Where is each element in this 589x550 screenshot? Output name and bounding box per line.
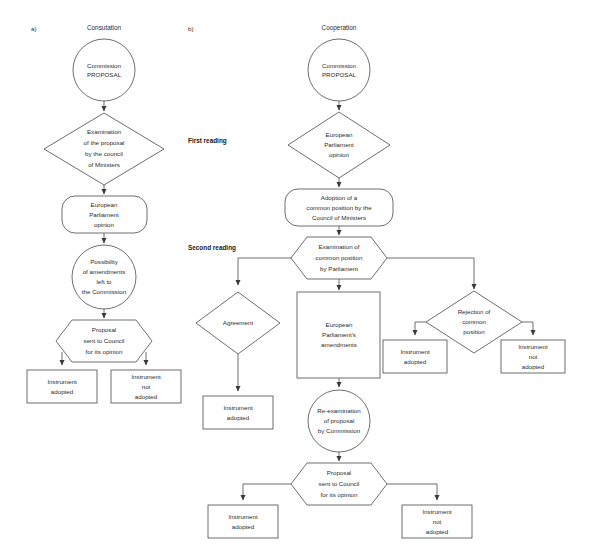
node-a-not-adopted-line-1: not: [142, 383, 151, 390]
node-b-final-adopted-line-0: Instrument: [228, 513, 258, 520]
node-b-agreement: Agreement: [196, 292, 280, 354]
node-b-agree-adopted: Instrument adopted: [203, 396, 273, 429]
node-a-examination-line-2: by the council: [85, 150, 123, 157]
node-b-rejection-not-adopted-line-0: Instrument: [518, 343, 548, 350]
node-a-examination: Examination of the proposal by the counc…: [44, 113, 164, 185]
node-b-rejection-not-adopted: Instrument not adopted: [501, 340, 565, 373]
node-a-adopted-line-1: adopted: [51, 388, 74, 395]
node-a-examination-line-0: Examination: [87, 128, 122, 135]
node-a-ep-opinion-line-1: Parliament: [89, 211, 119, 218]
node-a-ep-opinion-line-2: opinion: [94, 221, 115, 228]
edge-b-examination-to-rejection: [387, 258, 474, 289]
panel-a: a) Consutation Commission PROPOSAL Exami…: [27, 24, 181, 403]
flowchart-diagram: a) Consutation Commission PROPOSAL Exami…: [0, 0, 589, 550]
node-b-amendments-line-1: Parliament's: [322, 331, 356, 338]
panel-b-title: Cooperation: [322, 24, 357, 32]
node-b-agreement-line-0: Agreement: [223, 319, 254, 326]
node-a-proposal-line-0: Commission: [87, 62, 122, 69]
node-b-proposal-line-1: PROPOSAL: [322, 71, 357, 78]
edge-b-proposal-sent-to-final-adopted: [243, 484, 291, 500]
node-a-possibility-line-2: left to: [96, 278, 112, 285]
node-b-examination-line-2: by Parliament: [320, 265, 358, 272]
node-b-final-not-adopted-line-1: not: [433, 518, 442, 525]
edge-b-rejection-to-not-adopted: [522, 322, 533, 335]
node-b-rejection-adopted: Instrument adopted: [383, 340, 447, 373]
node-b-ep-opinion-line-2: opinion: [329, 151, 350, 158]
node-b-rejection-line-0: Rejection of: [458, 308, 491, 315]
node-a-not-adopted-line-2: adopted: [135, 393, 158, 400]
stage-label-first-reading: First reading: [188, 137, 227, 145]
node-a-proposal-sent-line-2: for its opinion: [86, 348, 123, 355]
node-b-amendments: European Parliament's amendments: [297, 292, 380, 378]
node-a-adopted-line-0: Instrument: [47, 378, 77, 385]
node-b-adoption-line-0: Adoption of a: [321, 194, 358, 201]
node-b-reexamination-line-0: Re-examination: [317, 407, 361, 414]
node-b-proposal-line-0: Commission: [322, 62, 357, 69]
node-a-proposal-sent-line-0: Proposal: [92, 326, 116, 333]
node-a-examination-line-1: of the proposal: [84, 139, 125, 146]
node-b-ep-opinion-line-0: European: [326, 131, 353, 138]
node-b-amendments-line-2: amendments: [321, 341, 357, 348]
node-b-examination-line-1: common position: [316, 254, 363, 261]
node-b-final-not-adopted: Instrument not adopted: [402, 505, 472, 538]
node-a-possibility-line-3: the Commission: [82, 288, 127, 295]
node-b-examination: Examination of common position by Parlia…: [291, 237, 387, 279]
node-b-proposal-sent: Proposal sent to Council for its opinion: [291, 463, 387, 505]
node-a-examination-line-3: of Ministers: [88, 161, 120, 168]
node-b-rejection-line-2: position: [463, 328, 485, 335]
node-b-reexamination-line-1: of proposal: [324, 417, 355, 424]
node-b-ep-opinion-line-1: Parliament: [324, 141, 354, 148]
node-a-ep-opinion-line-0: European: [91, 201, 118, 208]
node-b-agree-adopted-line-0: Instrument: [223, 404, 253, 411]
panel-a-marker: a): [31, 25, 37, 32]
node-b-proposal-sent-line-0: Proposal: [327, 469, 351, 476]
node-a-not-adopted: Instrument not adopted: [111, 370, 181, 403]
node-b-reexamination-line-2: by Commission: [318, 427, 361, 434]
node-b-reexamination: Re-examination of proposal by Commission: [308, 390, 370, 452]
panel-a-title: Consutation: [87, 24, 122, 31]
panel-b-marker: b): [188, 25, 194, 32]
node-b-rejection-adopted-line-1: adopted: [404, 358, 427, 365]
stage-label-second-reading: Second reading: [188, 244, 236, 252]
edge-b-proposal-sent-to-final-not-adopted: [387, 484, 437, 500]
node-a-possibility-line-1: of amendments: [83, 268, 126, 275]
node-b-ep-opinion: European Parliament opinion: [288, 112, 390, 178]
node-a-proposal-line-1: PROPOSAL: [87, 71, 122, 78]
flowchart-canvas: a) Consutation Commission PROPOSAL Exami…: [0, 0, 589, 550]
node-a-proposal: Commission PROPOSAL: [73, 39, 135, 101]
node-a-not-adopted-line-0: Instrument: [131, 373, 161, 380]
node-b-final-adopted-line-1: adopted: [232, 523, 255, 530]
node-b-proposal-sent-line-2: for its opinion: [321, 491, 358, 498]
node-b-adoption: Adoption of a common position by the Cou…: [285, 189, 393, 226]
node-b-agree-adopted-line-1: adopted: [227, 414, 250, 421]
node-a-possibility: Possibility of amendments left to the Co…: [72, 245, 136, 309]
node-b-amendments-line-0: European: [326, 321, 353, 328]
node-b-proposal-sent-line-1: sent to Council: [319, 480, 360, 487]
node-a-possibility-line-0: Possibility: [90, 258, 118, 265]
node-b-adoption-line-1: common position by the: [306, 204, 372, 211]
node-a-proposal-sent: Proposal sent to Council for its opinion: [56, 320, 152, 362]
node-b-rejection-not-adopted-line-1: not: [529, 353, 538, 360]
node-b-final-not-adopted-line-2: adopted: [426, 528, 449, 535]
edge-b-rejection-to-adopted: [415, 322, 426, 335]
node-a-proposal-sent-line-1: sent to Council: [84, 337, 125, 344]
node-a-adopted: Instrument adopted: [27, 370, 97, 403]
node-b-final-adopted: Instrument adopted: [208, 505, 278, 538]
node-b-proposal: Commission PROPOSAL: [308, 39, 370, 101]
node-b-rejection-not-adopted-line-2: adopted: [522, 363, 545, 370]
node-a-ep-opinion: European Parliament opinion: [62, 196, 147, 233]
node-b-examination-line-0: Examination of: [319, 243, 360, 250]
node-b-adoption-line-2: Council of Ministers: [312, 214, 366, 221]
edge-b-examination-to-agreement: [238, 258, 291, 285]
panel-b: b) Cooperation First reading Second read…: [188, 24, 565, 538]
node-b-rejection-line-1: common: [462, 318, 486, 325]
node-b-final-not-adopted-line-0: Instrument: [422, 508, 452, 515]
node-b-rejection-adopted-line-0: Instrument: [400, 348, 430, 355]
